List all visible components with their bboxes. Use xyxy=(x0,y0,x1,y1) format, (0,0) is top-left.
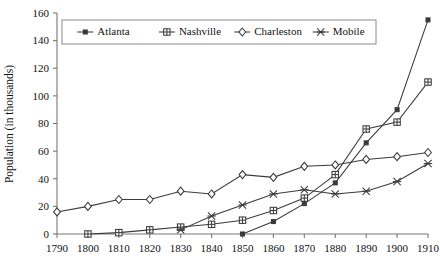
data-point-marker xyxy=(301,162,308,170)
data-point-marker xyxy=(364,141,368,145)
y-tick-label: 40 xyxy=(38,173,50,185)
data-point-marker xyxy=(425,79,431,85)
x-tick-label: 1860 xyxy=(262,242,285,254)
data-point-marker xyxy=(426,18,430,22)
data-point-marker xyxy=(238,201,246,208)
series-line xyxy=(57,153,428,212)
x-tick-label: 1880 xyxy=(324,242,347,254)
y-tick-label: 20 xyxy=(38,200,50,212)
data-point-marker xyxy=(394,119,400,125)
x-tick-label: 1850 xyxy=(232,242,255,254)
legend-label: Charleston xyxy=(254,25,302,37)
x-tick-label: 1870 xyxy=(293,242,316,254)
data-point-marker xyxy=(54,208,61,216)
y-tick-label: 80 xyxy=(38,117,50,129)
data-point-marker xyxy=(363,126,369,132)
data-point-marker xyxy=(424,160,432,167)
legend-label: Mobile xyxy=(333,25,365,37)
data-point-marker xyxy=(85,231,91,237)
y-tick-label: 100 xyxy=(33,90,50,102)
data-point-marker xyxy=(164,29,170,35)
population-line-chart: 0204060801001201401601790180018101820183… xyxy=(0,0,440,265)
data-point-marker xyxy=(333,181,337,185)
data-point-marker xyxy=(300,186,308,193)
data-point-marker xyxy=(332,161,339,169)
data-point-marker xyxy=(393,178,401,185)
data-point-marker xyxy=(425,149,432,157)
data-point-marker xyxy=(147,227,153,233)
series-line xyxy=(243,20,429,234)
data-point-marker xyxy=(269,190,277,197)
data-point-marker xyxy=(241,232,245,236)
x-tick-label: 1820 xyxy=(139,242,162,254)
y-tick-label: 0 xyxy=(44,228,50,240)
data-point-marker xyxy=(208,221,214,227)
data-point-marker xyxy=(85,202,92,210)
legend-label: Nashville xyxy=(179,25,221,37)
series-atlanta xyxy=(241,18,431,236)
data-point-marker xyxy=(363,155,370,163)
chart-legend: AtlantaNashvilleCharlestonMobile xyxy=(62,20,376,44)
data-point-marker xyxy=(115,195,122,203)
x-tick-label: 1800 xyxy=(77,242,100,254)
data-point-marker xyxy=(239,217,245,223)
data-point-marker xyxy=(239,171,246,179)
x-tick-label: 1810 xyxy=(108,242,131,254)
data-point-marker xyxy=(270,207,276,213)
data-point-marker xyxy=(395,108,399,112)
data-point-marker xyxy=(83,30,87,34)
data-point-marker xyxy=(177,187,184,195)
data-point-marker xyxy=(116,229,122,235)
data-point-marker xyxy=(270,173,277,181)
data-point-marker xyxy=(332,171,338,177)
y-tick-label: 60 xyxy=(38,145,50,157)
data-point-marker xyxy=(362,188,370,195)
data-point-marker xyxy=(146,195,153,203)
data-point-marker xyxy=(302,202,306,206)
y-tick-label: 140 xyxy=(33,34,50,46)
legend-label: Atlanta xyxy=(97,25,129,37)
x-tick-label: 1830 xyxy=(170,242,193,254)
data-point-marker xyxy=(301,195,307,201)
data-point-marker xyxy=(207,212,215,219)
x-tick-label: 1840 xyxy=(201,242,224,254)
y-tick-label: 120 xyxy=(33,62,50,74)
x-tick-label: 1910 xyxy=(417,242,440,254)
y-axis-title: Population (in thousands) xyxy=(3,65,16,183)
y-tick-label: 160 xyxy=(33,7,50,19)
x-tick-label: 1890 xyxy=(355,242,378,254)
data-point-marker xyxy=(331,190,339,197)
series-charleston xyxy=(54,149,432,216)
chart-canvas: 0204060801001201401601790180018101820183… xyxy=(0,0,440,265)
x-tick-label: 1790 xyxy=(46,242,69,254)
data-point-marker xyxy=(271,220,275,224)
data-point-marker xyxy=(208,190,215,198)
x-tick-label: 1900 xyxy=(386,242,409,254)
data-point-marker xyxy=(394,153,401,161)
